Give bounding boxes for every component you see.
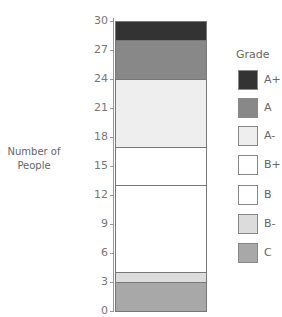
legend-swatch [238,185,258,205]
y-axis-label-line-2: People [0,159,68,173]
legend-label: B- [264,217,276,230]
legend-swatch [238,155,258,175]
legend-label: B [264,188,272,201]
y-tick [110,137,114,138]
y-tick-label: 12 [84,189,108,201]
y-tick-label: 27 [84,44,108,56]
bar-segment-a [115,40,207,80]
y-tick-label: 6 [84,247,108,259]
y-tick-label: 3 [84,276,108,288]
bar-segment-c [115,282,207,312]
legend-swatch [238,98,258,118]
y-tick [110,166,114,167]
y-tick-label: 21 [84,102,108,114]
y-axis-label: Number of People [0,145,68,173]
y-tick-label: 24 [84,73,108,85]
legend-label: B+ [264,158,281,171]
y-tick-label: 0 [84,305,108,317]
legend-label: C [264,246,272,259]
bar-segment-a-minusplus [115,21,207,41]
legend-swatch [238,126,258,146]
legend-swatch [238,70,258,90]
y-tick-label: 15 [84,160,108,172]
y-tick-label: 30 [84,15,108,27]
y-tick-label: 9 [84,218,108,230]
y-tick [110,50,114,51]
y-tick [110,79,114,80]
y-tick-label: 18 [84,131,108,143]
bar-segment-b [115,185,207,273]
legend-title: Grade [236,48,270,61]
legend-label: A [264,101,272,114]
legend-swatch [238,214,258,234]
y-tick [110,195,114,196]
bar-segment-b-minus [115,272,207,283]
legend-label: A+ [264,73,281,86]
bar-segment-b-minusplus [115,147,207,186]
y-tick [110,21,114,22]
y-tick [110,224,114,225]
bar-segment-a-minus [115,79,207,148]
y-axis-label-line-1: Number of [0,145,68,159]
y-tick [110,108,114,109]
y-tick [110,282,114,283]
y-axis-line [113,18,114,312]
legend-label: A- [264,129,275,142]
legend-swatch [238,243,258,263]
y-tick [110,311,114,312]
y-tick [110,253,114,254]
